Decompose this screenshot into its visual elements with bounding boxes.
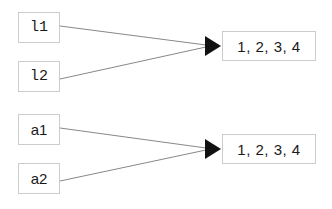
- node-a1[interactable]: a1: [18, 114, 60, 145]
- node-target-lower-label: 1, 2, 3, 4: [237, 142, 300, 157]
- arrowhead-target2: [205, 139, 221, 159]
- node-target-upper-label: 1, 2, 3, 4: [237, 39, 300, 54]
- edge-l2-to-target1: [60, 47, 206, 79]
- node-l1[interactable]: l1: [18, 12, 60, 43]
- node-target-lower[interactable]: 1, 2, 3, 4: [222, 134, 316, 164]
- node-target-upper[interactable]: 1, 2, 3, 4: [222, 31, 316, 61]
- node-l2[interactable]: l2: [18, 61, 60, 92]
- diagram-canvas: l1 l2 1, 2, 3, 4 a1 a2 1, 2, 3, 4: [0, 0, 332, 209]
- arrowhead-target1: [205, 36, 221, 56]
- node-a2-label: a2: [31, 171, 48, 186]
- edge-l1-to-target1: [60, 26, 206, 45]
- edge-a1-to-target2: [60, 128, 206, 148]
- node-l1-label: l1: [30, 20, 48, 35]
- edge-group-upper: [60, 26, 221, 79]
- edge-a2-to-target2: [60, 150, 206, 181]
- node-a1-label: a1: [31, 122, 48, 137]
- edge-group-lower: [60, 128, 221, 181]
- node-a2[interactable]: a2: [18, 163, 60, 194]
- node-l2-label: l2: [30, 69, 48, 84]
